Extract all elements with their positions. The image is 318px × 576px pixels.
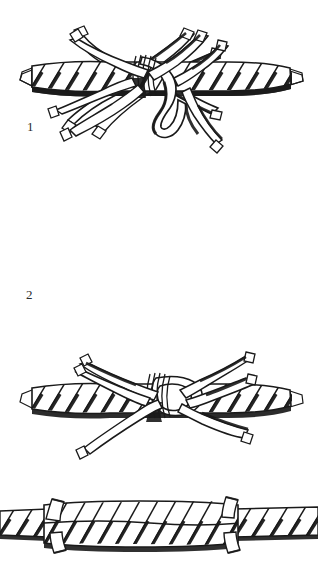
finished-splice-illustration (0, 475, 318, 576)
step-panel-3: 3 (0, 330, 318, 475)
step-3-illustration (0, 330, 318, 475)
step-number-2: 2 (26, 288, 33, 301)
splice-body-step4 (40, 497, 250, 552)
step-panel-2: 2 (0, 0, 318, 170)
finished-splice-panel (0, 475, 318, 576)
step-2-illustration (0, 0, 318, 170)
splice-diagram-figure: 1 (0, 0, 318, 576)
rope-right-step4 (230, 503, 318, 543)
